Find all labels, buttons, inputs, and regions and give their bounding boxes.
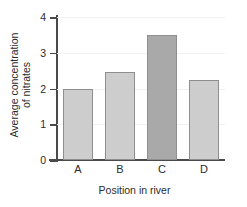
x-axis-tick-label: D — [200, 163, 208, 175]
y-axis-tick — [50, 89, 57, 91]
y-axis-tick — [50, 53, 57, 55]
gridline — [57, 53, 225, 54]
y-axis-tick-label: 0 — [24, 154, 46, 166]
x-axis-tick-label: A — [74, 163, 81, 175]
x-axis-title-text: Position in river — [99, 184, 171, 196]
bar-b — [105, 72, 135, 160]
y-axis-tick-label: 1 — [24, 118, 46, 130]
x-axis-tick-label: C — [158, 163, 166, 175]
x-axis-title: Position in river — [0, 184, 247, 196]
x-axis-tick-label: B — [116, 163, 123, 175]
x-axis-tick-labels: ABCD — [57, 163, 225, 181]
y-axis-tick-labels: 01234 — [24, 0, 46, 207]
bar-c — [147, 35, 177, 160]
gridline — [57, 17, 225, 18]
y-axis-tick-label: 4 — [24, 11, 46, 23]
bar-a — [63, 89, 93, 161]
bar-chart-figure: Average concentration of nitrates 01234 … — [0, 0, 247, 207]
y-axis-tick-label: 3 — [24, 47, 46, 59]
y-axis-tick-label: 2 — [24, 83, 46, 95]
y-axis-title-line1: Average concentration — [8, 33, 20, 138]
y-axis-tick — [50, 160, 57, 162]
plot-area — [57, 17, 225, 160]
y-axis-tick — [50, 124, 57, 126]
bar-d — [189, 80, 219, 160]
y-axis-tick — [50, 17, 57, 19]
